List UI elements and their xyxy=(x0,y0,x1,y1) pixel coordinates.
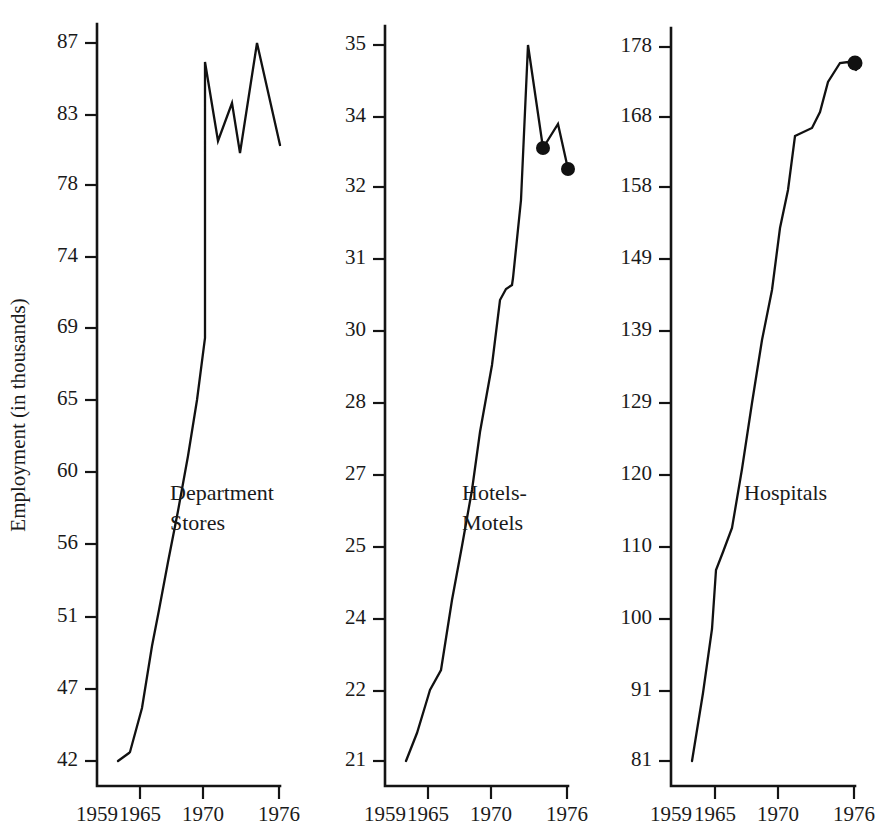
x-tick-labels: 1959 1965 1970 1976 xyxy=(364,802,588,826)
x-tick-label: 1976 xyxy=(833,802,875,826)
panel-label-line2: Stores xyxy=(170,510,225,535)
x-tick-label: 1970 xyxy=(182,802,224,826)
x-tick-label: 1976 xyxy=(258,802,300,826)
panel-label-line2: Motels xyxy=(462,510,523,535)
data-point-marker xyxy=(848,56,863,71)
panel-label-line1: Hospitals xyxy=(744,480,827,505)
x-tick-label: 1970 xyxy=(470,802,512,826)
y-axis-title-text: Employment (in thousands) xyxy=(6,298,30,531)
y-tick-label: 21 xyxy=(345,747,366,771)
y-tick-label: 139 xyxy=(621,317,653,341)
panel-label-line1: Hotels- xyxy=(462,480,527,505)
y-tick-label: 24 xyxy=(345,605,367,629)
y-tick-label: 30 xyxy=(345,317,366,341)
y-tick-label: 35 xyxy=(345,31,366,55)
y-tick-label: 34 xyxy=(345,103,367,127)
y-tick-label: 91 xyxy=(631,677,652,701)
x-tick-labels: 1959 1965 1970 1976 xyxy=(76,802,300,826)
y-tick-label: 25 xyxy=(345,533,366,557)
x-tick-label: 1965 xyxy=(407,802,449,826)
y-tick-label: 74 xyxy=(57,243,79,267)
y-tick-label: 42 xyxy=(57,747,78,771)
y-tick-label: 158 xyxy=(621,173,653,197)
y-tick-label: 28 xyxy=(345,389,366,413)
data-point-marker xyxy=(536,141,550,155)
series-markers-hospitals xyxy=(848,56,863,71)
y-tick-label: 83 xyxy=(57,101,78,125)
y-tick-label: 81 xyxy=(631,747,652,771)
y-tick-label: 120 xyxy=(621,461,653,485)
y-tick-label: 65 xyxy=(57,386,78,410)
x-tick-labels: 1959 1965 1970 1976 xyxy=(650,802,875,826)
x-tick-label: 1965 xyxy=(694,802,736,826)
x-tick-label: 1959 xyxy=(650,802,692,826)
y-tick-label: 60 xyxy=(57,458,78,482)
y-tick-label: 87 xyxy=(57,29,78,53)
employment-trend-figure: Employment (in thousands) 87 83 78 xyxy=(0,0,886,837)
y-tick-label: 47 xyxy=(57,675,78,699)
y-tick-label: 178 xyxy=(621,33,653,57)
y-tick-label: 168 xyxy=(621,103,653,127)
y-tick-label: 129 xyxy=(621,389,653,413)
y-tick-label: 32 xyxy=(345,173,366,197)
x-tick-label: 1970 xyxy=(757,802,799,826)
x-tick-label: 1976 xyxy=(546,802,588,826)
y-tick-label: 56 xyxy=(57,530,78,554)
y-tick-label: 78 xyxy=(57,171,78,195)
y-tick-label: 110 xyxy=(621,533,652,557)
x-tick-label: 1965 xyxy=(119,802,161,826)
y-tick-label: 149 xyxy=(621,245,653,269)
y-axis-title: Employment (in thousands) xyxy=(6,298,30,531)
figure-background xyxy=(0,0,886,837)
y-tick-label: 100 xyxy=(621,605,653,629)
y-tick-label: 51 xyxy=(57,603,78,627)
x-tick-label: 1959 xyxy=(364,802,406,826)
panel-label-line1: Department xyxy=(170,480,274,505)
y-tick-label: 22 xyxy=(345,677,366,701)
y-tick-label: 27 xyxy=(345,461,366,485)
panel-label-hospitals: Hospitals xyxy=(744,480,827,505)
y-tick-label: 69 xyxy=(57,314,78,338)
data-point-marker xyxy=(561,162,575,176)
x-tick-label: 1959 xyxy=(76,802,118,826)
y-tick-label: 31 xyxy=(345,245,366,269)
